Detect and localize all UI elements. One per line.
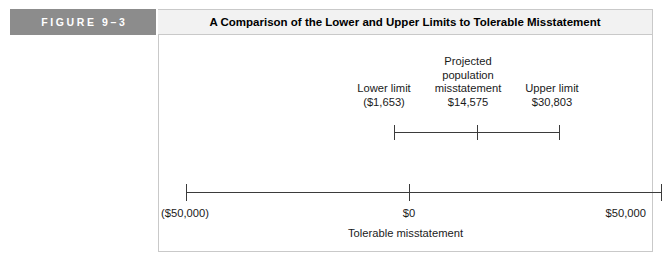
upper-limit-value: $30,803 [502,96,602,110]
interval-tick-lower-limit [394,125,395,140]
axis-tick-label-max: $50,000 [606,207,646,219]
figure-title: A Comparison of the Lower and Upper Limi… [209,16,600,28]
axis-tick-label-min: ($50,000) [161,207,209,219]
interval-tick-upper-limit [559,125,560,140]
upper-limit-name: Upper limit [502,82,602,96]
figure-number-label: FIGURE 9–3 [39,16,128,28]
figure-header: FIGURE 9–3 A Comparison of the Lower and… [10,9,653,35]
axis-tick-label-zero: $0 [359,207,459,219]
plot-area: Lower limit ($1,653) Projected populatio… [159,35,652,251]
figure-title-bar: A Comparison of the Lower and Upper Limi… [158,9,653,35]
figure-chart-panel: Lower limit ($1,653) Projected populatio… [158,35,653,252]
figure-number-badge: FIGURE 9–3 [10,9,156,35]
tolerable-misstatement-axis [186,183,662,201]
confidence-interval-scale [394,124,560,140]
x-axis-caption: Tolerable misstatement [159,227,652,239]
main-axis-line [186,192,662,193]
interval-tick-point-estimate [477,125,478,140]
upper-limit-annotation: Upper limit $30,803 [502,82,602,109]
axis-tick-max [661,184,662,201]
point-estimate-name-line-2: population [418,69,518,83]
axis-tick-min [186,184,187,201]
point-estimate-name-line-1: Projected [418,55,518,69]
axis-tick-zero [409,184,410,201]
